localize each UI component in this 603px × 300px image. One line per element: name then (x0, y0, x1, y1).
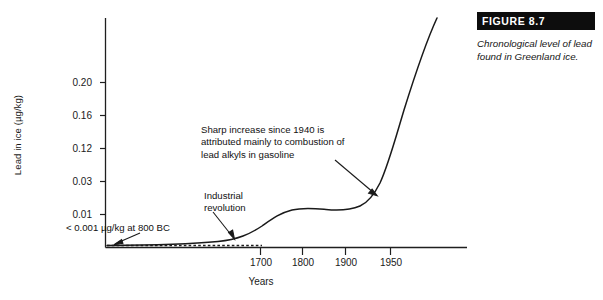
y-tick-label-0-03: 0.03 (48, 177, 92, 187)
y-tick-label-0-12: 0.12 (48, 144, 92, 154)
figure-number-bar: FIGURE 8.7 (477, 12, 595, 30)
figure-caption-block: FIGURE 8.7 Chronological level of lead f… (477, 12, 595, 63)
x-tick-label-1950: 1950 (370, 258, 412, 268)
figure-8-7: Lead in ice (µg/kg) 0.20 0.16 0.12 0.03 … (0, 0, 603, 300)
industrial-revolution-arrow (213, 212, 235, 239)
y-tick-label-0-01: 0.01 (48, 210, 92, 220)
x-tick-label-1700: 1700 (240, 258, 282, 268)
y-tick-label-0-20: 0.20 (48, 78, 92, 88)
figure-caption-text: Chronological level of lead found in Gre… (477, 37, 595, 63)
y-axis-title: Lead in ice (µg/kg) (12, 70, 23, 200)
annotation-sharp-increase: Sharp increase since 1940 is attributed … (201, 124, 344, 161)
x-tick-marks (261, 247, 391, 255)
y-tick-label-0-16: 0.16 (48, 111, 92, 121)
y-axis-title-text: Lead in ice (µg/kg) (12, 70, 23, 200)
sharp-increase-arrow (335, 160, 377, 196)
x-tick-label-1900: 1900 (325, 258, 367, 268)
annotation-baseline-note: < 0.001 µg/kg at 800 BC (66, 222, 170, 234)
x-axis-title: Years (239, 277, 283, 287)
baseline-note-arrow (114, 233, 140, 245)
annotation-industrial-revolution: Industrial revolution (204, 190, 246, 215)
x-tick-label-1800: 1800 (282, 258, 324, 268)
